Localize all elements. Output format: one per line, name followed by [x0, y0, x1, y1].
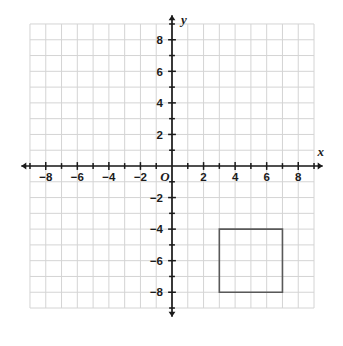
y-tick-label: −2 [150, 192, 163, 204]
x-tick-label: 2 [200, 171, 206, 183]
x-tick-label: −6 [71, 171, 84, 183]
y-tick-label: 8 [157, 34, 164, 46]
coordinate-plane-figure: −8−6−4−224688642−2−4−6−8Oxy [0, 0, 343, 346]
y-tick-label: 2 [157, 129, 163, 141]
x-tick-label: −4 [102, 171, 116, 183]
x-tick-label: 4 [232, 171, 239, 183]
y-axis-label: y [179, 12, 187, 27]
coordinate-grid-svg: −8−6−4−224688642−2−4−6−8Oxy [0, 0, 343, 346]
y-tick-label: −6 [150, 255, 163, 267]
y-tick-label: −4 [150, 223, 164, 235]
x-tick-label: 6 [263, 171, 269, 183]
origin-label: O [160, 169, 170, 184]
x-tick-label: −2 [134, 171, 147, 183]
x-tick-label: −8 [39, 171, 53, 183]
x-tick-label: 8 [295, 171, 302, 183]
y-tick-label: 6 [157, 66, 163, 78]
y-tick-label: 4 [157, 97, 164, 109]
y-tick-label: −8 [150, 286, 164, 298]
x-axis-label: x [316, 144, 324, 159]
